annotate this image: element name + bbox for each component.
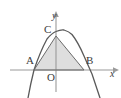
point-label-c: C bbox=[44, 24, 51, 35]
point-label-b: B bbox=[86, 55, 93, 66]
point-label-a: A bbox=[26, 55, 34, 66]
geometry-figure: A B C O y x bbox=[0, 0, 121, 98]
figure-canvas bbox=[0, 0, 121, 98]
x-axis-label: x bbox=[110, 69, 114, 79]
y-axis-label: y bbox=[52, 11, 56, 21]
origin-label: O bbox=[47, 72, 55, 83]
